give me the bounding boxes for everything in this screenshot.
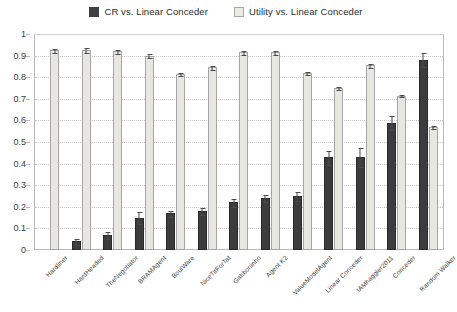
y-axis-tick-mark <box>26 56 30 57</box>
y-axis-tick-mark <box>26 228 30 229</box>
error-bar <box>117 50 118 55</box>
x-axis-tick: ValueModelAgent <box>286 250 318 312</box>
x-axis-tick: TheNegotiator <box>97 250 129 312</box>
error-bar <box>233 199 234 208</box>
bar-utility <box>82 50 91 250</box>
bar-utility <box>429 127 438 250</box>
bar-cr <box>166 213 175 250</box>
error-bar <box>202 208 203 217</box>
y-axis-tick-label: 0.3 <box>13 180 26 190</box>
y-axis-tick-label: 0.5 <box>13 137 26 147</box>
legend-entry-utility: Utility vs. Linear Conceder <box>234 6 363 17</box>
x-axis-tick: IAMhaggler2011 <box>349 250 381 312</box>
bar-group <box>412 34 444 250</box>
y-axis-tick-label: 0.8 <box>13 72 26 82</box>
x-axis-tick: Gahboninho <box>223 250 255 312</box>
bar-utility <box>271 52 280 250</box>
x-axis-tick: Conceder <box>381 250 413 312</box>
y-axis: 00.10.20.30.40.50.60.70.80.91 <box>0 34 30 250</box>
bar-cr <box>419 60 428 250</box>
bar-cr <box>261 198 270 250</box>
bar-utility <box>239 52 248 250</box>
bar-series-container <box>34 34 444 250</box>
x-axis-tick-label: Random Walker <box>418 254 457 293</box>
bar-utility <box>208 67 217 250</box>
chart-legend: CR vs. Linear Conceder Utility vs. Linea… <box>0 6 452 17</box>
error-bar <box>338 87 339 91</box>
error-bar <box>180 73 181 76</box>
bar-utility <box>303 73 312 250</box>
y-axis-tick-label: 0.1 <box>13 223 26 233</box>
bar-utility <box>176 74 185 250</box>
error-bar <box>433 126 434 130</box>
legend-label-utility: Utility vs. Linear Conceder <box>249 6 363 17</box>
error-bar <box>212 66 213 70</box>
y-axis-tick-mark <box>26 77 30 78</box>
bar-group <box>223 34 255 250</box>
y-axis-tick-label: 0.7 <box>13 94 26 104</box>
error-bar <box>370 64 371 69</box>
bar-cr <box>198 211 207 250</box>
legend-entry-cr: CR vs. Linear Conceder <box>89 6 208 17</box>
error-bar <box>265 195 266 204</box>
y-axis-tick-label: 0.9 <box>13 51 26 61</box>
bar-cr <box>293 196 302 250</box>
y-axis-tick-mark <box>26 250 30 251</box>
legend-label-cr: CR vs. Linear Conceder <box>104 6 208 17</box>
error-bar <box>139 212 140 225</box>
y-axis-tick-label: 0.6 <box>13 115 26 125</box>
error-bar <box>423 53 424 68</box>
error-bar <box>328 151 329 166</box>
error-bar <box>275 51 276 55</box>
y-axis-tick-label: 0.4 <box>13 159 26 169</box>
y-axis-tick-mark <box>26 142 30 143</box>
error-bar <box>391 116 392 131</box>
bar-group <box>349 34 381 250</box>
legend-swatch-utility-icon <box>234 7 244 17</box>
bar-group <box>97 34 129 250</box>
bar-group <box>255 34 287 250</box>
error-bar <box>76 239 77 245</box>
bar-group <box>66 34 98 250</box>
bar-utility <box>50 50 59 250</box>
y-axis-tick-mark <box>26 164 30 165</box>
error-bar <box>149 54 150 58</box>
bar-group <box>318 34 350 250</box>
bar-group <box>381 34 413 250</box>
bar-cr <box>72 241 81 250</box>
y-axis-tick-mark <box>26 207 30 208</box>
error-bar <box>360 148 361 167</box>
bar-cr <box>229 202 238 250</box>
bar-utility <box>397 96 406 250</box>
bar-cr <box>356 157 365 250</box>
bar-group <box>129 34 161 250</box>
y-axis-tick-label: 0.2 <box>13 202 26 212</box>
x-axis-tick: Linear Conceder <box>318 250 350 312</box>
bar-group <box>192 34 224 250</box>
x-axis-tick: Random Walker <box>412 250 444 312</box>
bar-utility <box>113 51 122 250</box>
bar-utility <box>145 56 154 250</box>
error-bar <box>170 211 171 217</box>
x-axis: HardlinerHardHeadedTheNegotiatorBRAMAgen… <box>34 250 444 312</box>
error-bar <box>243 51 244 55</box>
bar-group <box>34 34 66 250</box>
error-bar <box>54 49 55 54</box>
x-axis-tick: HardHeaded <box>66 250 98 312</box>
bar-cr <box>387 123 396 250</box>
x-axis-tick: NiceTitForTat <box>192 250 224 312</box>
x-axis-tick: BRAMAgent <box>129 250 161 312</box>
y-axis-tick-mark <box>26 120 30 121</box>
bar-utility <box>334 88 343 250</box>
x-axis-tick: Agent K2 <box>255 250 287 312</box>
bar-utility <box>366 65 375 250</box>
legend-swatch-cr-icon <box>89 7 99 17</box>
x-axis-tick: Hardliner <box>34 250 66 312</box>
error-bar <box>297 192 298 203</box>
y-axis-tick-mark <box>26 99 30 100</box>
x-axis-tick: BoulWare <box>160 250 192 312</box>
y-axis-tick-mark <box>26 34 30 35</box>
error-bar <box>401 95 402 98</box>
bar-cr <box>135 218 144 250</box>
error-bar <box>86 48 87 54</box>
